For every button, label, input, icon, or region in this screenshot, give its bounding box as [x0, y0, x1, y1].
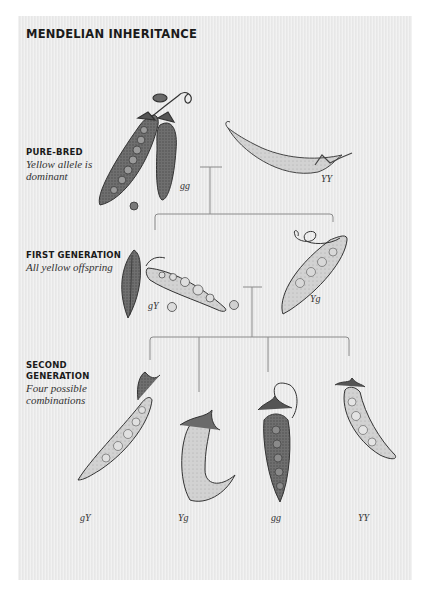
pea-pod-yellow-closed-icon [180, 410, 235, 501]
inheritance-tree [0, 0, 423, 592]
pea-stem-icon [138, 93, 191, 122]
genotype-label-first-left: gY [148, 300, 159, 311]
genotype-label-second-1: gY [80, 512, 91, 523]
pea-pod-green-open-icon [99, 115, 158, 205]
leaf-icon [122, 250, 141, 318]
pea-pod-green-closed-icon [157, 123, 177, 200]
genotype-label-first-right: Yg [310, 293, 321, 304]
pea-pod-green-icon [258, 383, 297, 502]
pea-icon [230, 301, 239, 310]
pea-pod-yellow-open-icon [335, 378, 396, 459]
genotype-label-second-2: Yg [178, 512, 189, 523]
pea-icon [130, 202, 138, 210]
genotype-label-pure-right: YY [321, 173, 332, 184]
genotype-label-second-3: gg [271, 512, 281, 523]
genotype-label-second-4: YY [358, 512, 369, 523]
genotype-label-pure-left: gg [180, 180, 190, 191]
pea-pod-yellow-open-icon [78, 372, 160, 480]
pea-pod-yellow-icon [226, 121, 352, 173]
pea-icon [168, 303, 177, 312]
